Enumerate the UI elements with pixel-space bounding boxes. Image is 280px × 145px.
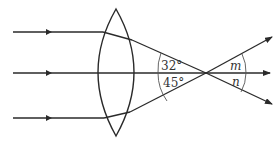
angle-label-n: n [232,75,240,89]
angle-label-upper-left: 32° [161,59,182,73]
arrow-icon [46,115,52,121]
arrow-icon [46,29,52,35]
lens-ray-diagram: 32° 45° m n [0,0,280,145]
angle-label-lower-left: 45° [163,76,184,90]
arrow-icon [46,70,52,76]
angle-arc-upper-right [242,54,246,73]
angle-label-m: m [230,59,241,73]
